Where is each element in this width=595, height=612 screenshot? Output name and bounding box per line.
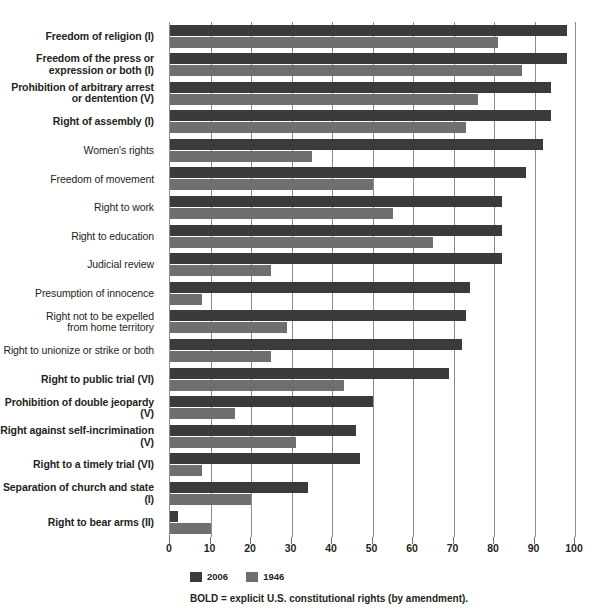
category-label: Separation of church and state (I) (0, 480, 162, 509)
bar-2006 (170, 453, 360, 464)
category-label-line: Judicial review (87, 259, 154, 271)
bar-1946 (170, 94, 478, 105)
bar-2006 (170, 511, 178, 522)
category-label-line: Right to education (71, 231, 154, 243)
bar-1946 (170, 408, 235, 419)
bar-2006 (170, 110, 551, 121)
category-label: Right to public trial (VI) (0, 365, 162, 394)
category-label: Judicial review (0, 251, 162, 280)
category-label-line: expression or both (I) (36, 65, 154, 77)
category-label-line: Right against self-incrimination (V) (0, 425, 154, 448)
bar-row (170, 308, 575, 337)
bar-1946 (170, 351, 271, 362)
bar-row (170, 22, 575, 51)
gridline (575, 22, 576, 537)
bar-row (170, 79, 575, 108)
bar-2006 (170, 253, 502, 264)
bar-1946 (170, 122, 466, 133)
bar-2006 (170, 310, 466, 321)
axis-tick-label: 0 (166, 542, 172, 554)
category-label-line: Right to public trial (VI) (41, 374, 154, 386)
axis-tick-label: 10 (204, 542, 216, 554)
category-label-line: Freedom of religion (I) (45, 31, 154, 43)
category-label-line: Presumption of innocence (35, 288, 154, 300)
bar-1946 (170, 437, 296, 448)
axis-tick-label: 60 (406, 542, 418, 554)
category-label: Presumption of innocence (0, 279, 162, 308)
bar-row (170, 279, 575, 308)
bar-2006 (170, 425, 356, 436)
category-label-line: Right to a timely trial (VI) (33, 459, 154, 471)
bar-2006 (170, 82, 551, 93)
bar-2006 (170, 482, 308, 493)
x-axis-tick-labels: 0102030405060708090100 (0, 542, 595, 558)
legend: 20061946 (190, 571, 284, 582)
category-label-line: Freedom of movement (50, 174, 154, 186)
category-label-line: Separation of church and state (I) (0, 482, 154, 505)
category-label-line: Right to work (94, 202, 154, 214)
category-label-line: from home territory (46, 322, 154, 334)
bar-2006 (170, 339, 462, 350)
axis-tick-label: 70 (447, 542, 459, 554)
axis-tick-label: 80 (487, 542, 499, 554)
axis-tick-label: 30 (285, 542, 297, 554)
category-label: Prohibition of double jeopardy (V) (0, 394, 162, 423)
bar-1946 (170, 523, 211, 534)
bar-row (170, 394, 575, 423)
bar-row (170, 108, 575, 137)
legend-swatch-icon (190, 572, 202, 582)
bar-1946 (170, 208, 393, 219)
category-label: Right to unionize or strike or both (0, 337, 162, 366)
bar-row (170, 251, 575, 280)
bar-row (170, 136, 575, 165)
axis-tick-label: 90 (528, 542, 540, 554)
category-label-line: or dentention (V) (11, 93, 154, 105)
bar-1946 (170, 494, 251, 505)
bar-row (170, 451, 575, 480)
category-label: Freedom of the press orexpression or bot… (0, 51, 162, 80)
category-label: Right to bear arms (II) (0, 508, 162, 537)
category-label-line: Women's rights (84, 145, 154, 157)
legend-item: 2006 (190, 571, 228, 582)
category-label: Right to education (0, 222, 162, 251)
bar-1946 (170, 179, 373, 190)
bar-2006 (170, 282, 470, 293)
bar-2006 (170, 368, 449, 379)
bar-1946 (170, 37, 498, 48)
bar-2006 (170, 396, 373, 407)
axis-tick-label: 20 (244, 542, 256, 554)
chart-container: Freedom of religion (I)Freedom of the pr… (0, 0, 595, 612)
category-label: Freedom of religion (I) (0, 22, 162, 51)
category-label: Freedom of movement (0, 165, 162, 194)
bar-row (170, 480, 575, 509)
bar-row (170, 422, 575, 451)
legend-label: 1946 (263, 571, 284, 582)
plot-area (169, 22, 575, 537)
bar-2006 (170, 53, 567, 64)
bar-row (170, 165, 575, 194)
bar-1946 (170, 65, 522, 76)
category-label-line: Right to bear arms (II) (48, 517, 154, 529)
category-label: Right to work (0, 194, 162, 223)
bar-row (170, 508, 575, 537)
bar-row (170, 365, 575, 394)
legend-item: 1946 (246, 571, 284, 582)
footnote: BOLD = explicit U.S. constitutional righ… (190, 593, 468, 604)
category-label-line: Prohibition of double jeopardy (V) (0, 397, 154, 420)
axis-tick-label: 50 (366, 542, 378, 554)
bar-2006 (170, 196, 502, 207)
category-label: Women's rights (0, 136, 162, 165)
legend-label: 2006 (207, 571, 228, 582)
category-label: Prohibition of arbitrary arrestor denten… (0, 79, 162, 108)
category-label-line: Right to unionize or strike or both (3, 345, 154, 357)
category-label-line: Right of assembly (I) (53, 116, 154, 128)
bar-rows (170, 22, 575, 537)
category-labels: Freedom of religion (I)Freedom of the pr… (0, 22, 162, 537)
bar-row (170, 194, 575, 223)
bar-1946 (170, 380, 344, 391)
bar-1946 (170, 265, 271, 276)
bar-2006 (170, 139, 543, 150)
axis-tick-label: 100 (565, 542, 583, 554)
bar-row (170, 337, 575, 366)
category-label: Right of assembly (I) (0, 108, 162, 137)
